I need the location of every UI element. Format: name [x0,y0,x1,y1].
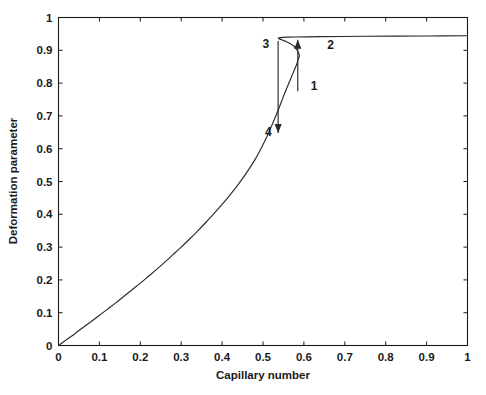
x-tick-label: 1 [464,351,471,363]
y-tick-label: 0.3 [37,241,53,253]
x-axis-label: Capillary number [216,369,310,381]
annotation-3: 3 [263,37,270,51]
y-tick-label: 0.8 [37,77,54,89]
x-tick-label: 0.7 [337,351,353,363]
annotation-1: 1 [311,79,318,93]
y-tick-label: 0.1 [37,307,54,319]
y-tick-label: 0 [46,340,52,352]
y-tick-label: 0.7 [37,110,53,122]
y-tick-label: 1 [46,12,53,24]
x-tick-label: 0.5 [255,351,272,363]
annotation-2: 2 [327,38,334,52]
y-tick-label: 0.6 [37,143,53,155]
x-tick-label: 0.1 [91,351,108,363]
x-tick-label: 0.2 [132,351,148,363]
x-tick-label: 0.4 [214,351,231,363]
x-tick-label: 0.8 [378,351,395,363]
y-tick-label: 0.2 [37,274,53,286]
x-tick-label: 0.6 [296,351,312,363]
annotation-4: 4 [265,125,272,139]
chart-svg: 00.10.20.30.40.50.60.70.80.91 00.10.20.3… [0,0,486,395]
y-tick-label: 0.4 [37,208,54,220]
x-tick-label: 0.3 [173,351,189,363]
x-tick-label: 0.9 [419,351,435,363]
x-tick-label: 0 [55,351,61,363]
y-tick-label: 0.5 [37,176,54,188]
y-axis-label: Deformation parameter [7,117,19,244]
y-tick-label: 0.9 [37,44,53,56]
chart-figure: 00.10.20.30.40.50.60.70.80.91 00.10.20.3… [0,0,486,395]
